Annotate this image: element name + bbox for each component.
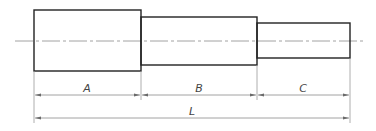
arrow-right-icon	[343, 94, 349, 97]
section-a-outline	[34, 10, 141, 71]
arrow-left-icon	[35, 117, 41, 120]
dimension-c: C	[258, 82, 349, 97]
dimension-l: L	[35, 105, 349, 120]
arrow-right-icon	[134, 94, 140, 97]
dimension-label-c: C	[299, 82, 307, 95]
dimension-label-l: L	[189, 105, 195, 118]
dimension-b: B	[142, 82, 256, 97]
arrow-right-icon	[250, 94, 256, 97]
dimension-a: A	[35, 82, 140, 97]
shaft-drawing: A B C L	[0, 0, 376, 131]
section-c-outline	[257, 23, 350, 58]
arrow-left-icon	[258, 94, 264, 97]
arrow-left-icon	[142, 94, 148, 97]
dimension-label-a: A	[82, 82, 91, 95]
dimension-label-b: B	[195, 82, 203, 95]
arrow-left-icon	[35, 94, 41, 97]
arrow-right-icon	[343, 117, 349, 120]
